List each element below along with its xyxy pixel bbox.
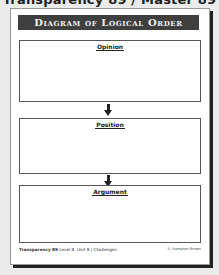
footer-credit: © Hampton-Brown <box>167 247 201 251</box>
diagram-title: Diagram of Logical Order <box>18 15 199 30</box>
opinion-label: Opinion <box>20 43 200 50</box>
argument-label: Argument <box>20 188 200 195</box>
footer-left: Transparency 89 Level 8, Unit 8 | Challe… <box>19 247 117 252</box>
argument-box: Argument <box>19 185 201 243</box>
page-header: Transparency 89 / Master 89 <box>0 0 219 7</box>
position-box: Position <box>19 118 201 174</box>
page-footer: Transparency 89 Level 8, Unit 8 | Challe… <box>19 247 201 255</box>
down-arrow-icon <box>105 104 111 116</box>
position-label: Position <box>20 121 200 128</box>
opinion-box: Opinion <box>19 40 201 102</box>
worksheet-page: Diagram of Logical Order Opinion Positio… <box>10 8 210 265</box>
